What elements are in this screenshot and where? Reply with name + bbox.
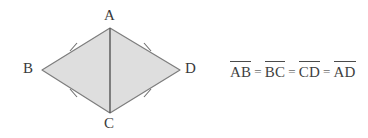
vertex-label-a: A [104, 8, 115, 23]
equals-operator-3: = [323, 63, 331, 81]
vertex-label-c: C [104, 116, 114, 131]
rhombus-polygon [42, 28, 180, 113]
equals-operator-1: = [254, 63, 262, 81]
rhombus-figure: A B D C AB=BC=CD=AD [0, 0, 368, 138]
segment-term-ad: AD [334, 61, 356, 81]
segment-equality-equation: AB=BC=CD=AD [229, 61, 357, 81]
equals-operator-2: = [288, 63, 296, 81]
segment-term-ab: AB [230, 61, 251, 81]
vertex-label-d: D [185, 61, 196, 76]
segment-term-bc: BC [265, 61, 285, 81]
segment-term-cd: CD [299, 61, 320, 81]
vertex-label-b: B [23, 61, 33, 76]
